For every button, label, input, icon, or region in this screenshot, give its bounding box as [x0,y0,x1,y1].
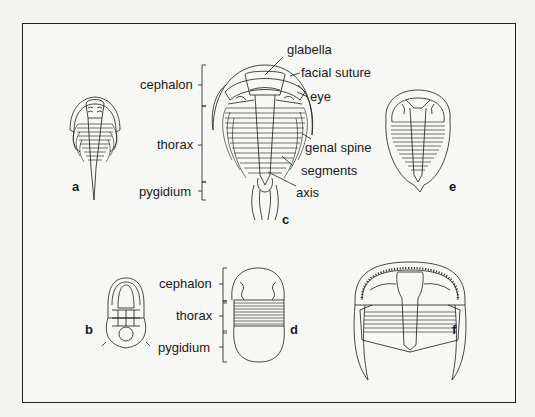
trilobite-f-drawing [354,262,466,380]
trilobite-d-drawing [219,268,284,362]
figure-label-c: c [282,213,289,226]
label-segments: segments [301,164,357,177]
label-eye: eye [310,90,331,103]
label-glabella: glabella [287,43,332,56]
label-d-pygidium: pygidium [158,341,210,354]
label-axis: axis [296,186,319,199]
label-d-thorax: thorax [176,309,212,322]
figure-label-a: a [72,180,79,193]
label-c-pygidium: pygidium [139,185,191,198]
label-d-cephalon: cephalon [159,277,212,290]
trilobite-illustrations [0,0,535,417]
figure-label-d: d [290,323,298,336]
label-c-thorax: thorax [157,138,193,151]
figure-label-e: e [449,180,456,193]
figure-label-f: f [452,323,456,336]
label-facial-suture: facial suture [301,66,371,79]
figure-label-b: b [85,323,93,336]
label-genal-spine: genal spine [305,141,372,154]
trilobite-e-drawing [386,90,450,192]
label-c-cephalon: cephalon [140,78,193,91]
trilobite-b-drawing [102,278,150,348]
